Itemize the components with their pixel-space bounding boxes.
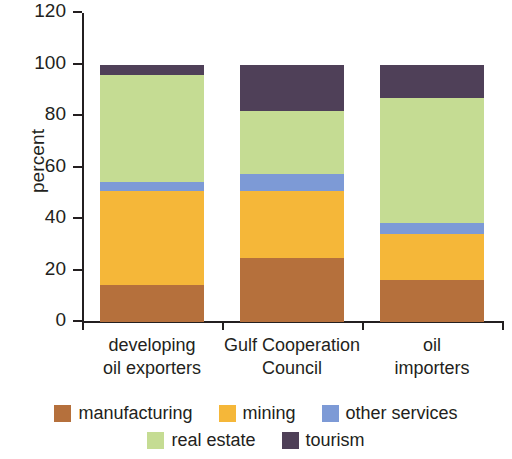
legend-item-other-services[interactable]: other services xyxy=(322,403,458,424)
legend-row: real estatetourism xyxy=(0,427,512,454)
legend-swatch-manufacturing xyxy=(54,405,71,422)
bar-segment-other-services xyxy=(380,223,484,235)
bar-segment-manufacturing xyxy=(380,280,484,322)
x-tick xyxy=(502,321,504,330)
y-tick-label: 20 xyxy=(45,257,66,279)
legend-label: real estate xyxy=(171,430,255,451)
bar-segment-mining xyxy=(100,191,204,286)
x-axis-label-oil-importers: oilimporters xyxy=(362,334,502,380)
bar-segment-manufacturing xyxy=(240,258,344,322)
legend-item-manufacturing[interactable]: manufacturing xyxy=(54,403,192,424)
x-axis-label-line: oil exporters xyxy=(82,357,222,380)
x-axis-label-line: developing xyxy=(82,334,222,357)
legend-swatch-tourism xyxy=(282,432,299,449)
x-axis-label-developing-oil-exporters: developingoil exporters xyxy=(82,334,222,380)
bar-developing-oil-exporters xyxy=(100,13,204,322)
bar-segment-tourism xyxy=(100,65,204,75)
legend-swatch-other-services xyxy=(322,405,339,422)
bar-segment-other-services xyxy=(100,182,204,191)
y-tick: 120 xyxy=(73,11,82,13)
bar-segment-manufacturing xyxy=(100,285,204,322)
bar-segment-real-estate xyxy=(240,111,344,174)
y-tick: 20 xyxy=(73,269,82,271)
bar-segment-mining xyxy=(380,234,484,280)
bar-oil-importers xyxy=(380,13,484,322)
legend-item-real-estate[interactable]: real estate xyxy=(147,430,255,451)
x-axis-label-line: Gulf Cooperation xyxy=(222,334,362,357)
stacked-bar-chart: percent 020406080100120 developingoil ex… xyxy=(0,0,512,459)
y-tick-label: 100 xyxy=(34,51,66,73)
y-tick-label: 120 xyxy=(34,0,66,22)
y-tick-label: 80 xyxy=(45,103,66,125)
legend-swatch-mining xyxy=(219,405,236,422)
bar-segment-tourism xyxy=(380,65,484,98)
legend-label: other services xyxy=(346,403,458,424)
legend-label: mining xyxy=(243,403,296,424)
legend-swatch-real-estate xyxy=(147,432,164,449)
x-tick xyxy=(82,321,84,330)
y-tick-label: 40 xyxy=(45,206,66,228)
y-tick: 60 xyxy=(73,166,82,168)
legend-label: manufacturing xyxy=(78,403,192,424)
x-axis-label-line: Council xyxy=(222,357,362,380)
plot-area: 020406080100120 xyxy=(82,13,502,322)
bar-segment-mining xyxy=(240,191,344,258)
legend-label: tourism xyxy=(306,430,365,451)
bar-gulf-cooperation-council xyxy=(240,13,344,322)
x-tick xyxy=(362,321,364,330)
y-tick-label: 0 xyxy=(55,309,66,331)
legend-row: manufacturingminingother services xyxy=(0,400,512,427)
legend-item-tourism[interactable]: tourism xyxy=(282,430,365,451)
bar-segment-other-services xyxy=(240,174,344,191)
y-tick: 80 xyxy=(73,114,82,116)
y-tick: 100 xyxy=(73,63,82,65)
bar-segment-real-estate xyxy=(100,75,204,182)
chart-legend: manufacturingminingother servicesreal es… xyxy=(0,400,512,454)
y-tick: 0 xyxy=(73,320,82,322)
y-tick-label: 60 xyxy=(45,154,66,176)
y-tick: 40 xyxy=(73,217,82,219)
legend-item-mining[interactable]: mining xyxy=(219,403,296,424)
bar-segment-real-estate xyxy=(380,98,484,223)
x-axis-label-line: oil xyxy=(362,334,502,357)
x-tick xyxy=(222,321,224,330)
x-axis-label-line: importers xyxy=(362,357,502,380)
bar-segment-tourism xyxy=(240,65,344,111)
x-axis-label-gulf-cooperation-council: Gulf CooperationCouncil xyxy=(222,334,362,380)
